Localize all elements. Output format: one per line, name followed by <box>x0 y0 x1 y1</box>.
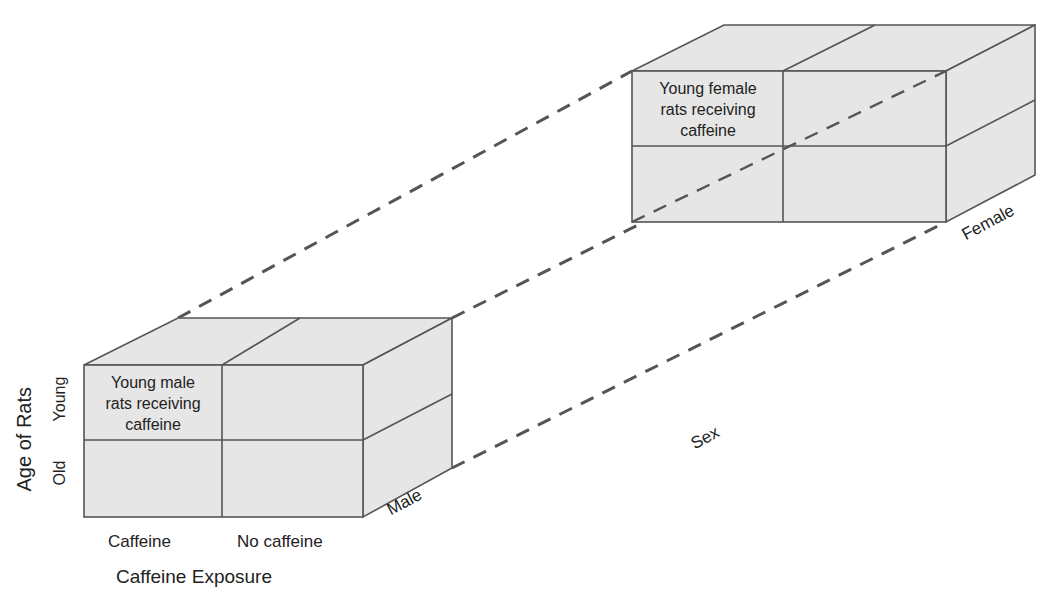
cell-line: rats receiving <box>634 99 782 120</box>
cell-line: rats receiving <box>86 393 220 414</box>
cell-line: Young male <box>86 372 220 393</box>
y-axis-title: Age of Rats <box>13 392 36 492</box>
column-label-caffeine: Caffeine <box>108 532 171 552</box>
x-axis-title: Caffeine Exposure <box>116 566 272 588</box>
cell-line: caffeine <box>86 414 220 435</box>
cell-young-female-caffeine: Young female rats receiving caffeine <box>634 78 782 141</box>
factorial-cube-diagram <box>0 0 1050 599</box>
row-label-young: Young <box>51 369 69 429</box>
cell-line: caffeine <box>634 120 782 141</box>
cell-line: Young female <box>634 78 782 99</box>
column-label-no-caffeine: No caffeine <box>237 532 323 552</box>
row-label-old: Old <box>51 443 69 503</box>
connector-top-left <box>178 71 632 318</box>
cell-young-male-caffeine: Young male rats receiving caffeine <box>86 372 220 435</box>
